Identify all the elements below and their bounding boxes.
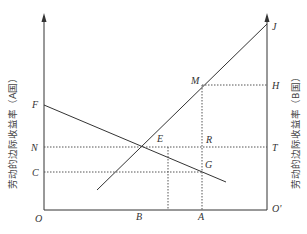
right-axis-arrow-icon: [265, 13, 270, 22]
label-H: H: [271, 80, 280, 91]
label-E: E: [156, 133, 163, 144]
label-J: J: [272, 21, 277, 32]
right-axis-title: 劳动的边际收益率（B国）: [290, 72, 301, 189]
label-O: O: [35, 213, 42, 224]
label-T: T: [272, 142, 279, 153]
left-axis-arrow-icon: [42, 13, 47, 22]
label-O-prime: O': [272, 203, 282, 214]
label-R: R: [205, 134, 212, 145]
label-G: G: [205, 159, 212, 170]
curve-country-b: [97, 24, 267, 190]
label-M: M: [190, 75, 200, 86]
label-C: C: [32, 167, 39, 178]
label-F: F: [31, 99, 39, 110]
label-N: N: [30, 142, 39, 153]
label-A: A: [197, 211, 205, 222]
labor-marginal-return-diagram: F N C O E M R G B A J H T O' 劳动的边际收益率（A国…: [0, 0, 307, 234]
label-B: B: [136, 211, 142, 222]
left-axis-title: 劳动的边际收益率（A国）: [7, 73, 18, 190]
curve-country-a: [44, 105, 226, 182]
